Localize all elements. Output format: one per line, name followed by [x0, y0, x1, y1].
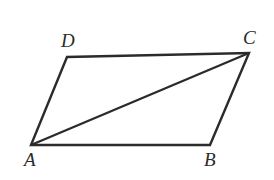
- vertex-label-c: C: [243, 28, 256, 47]
- vertex-label-d: D: [61, 31, 75, 50]
- vertex-label-a: A: [24, 150, 36, 169]
- geometry-figure: D C A B: [0, 0, 274, 180]
- parallelogram-diagram: [0, 0, 274, 180]
- vertex-label-b: B: [204, 150, 216, 169]
